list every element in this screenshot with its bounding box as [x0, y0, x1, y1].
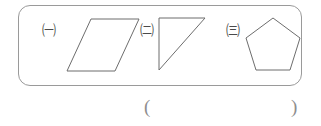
- right-triangle-shape: [157, 15, 213, 77]
- worksheet-canvas: ㈠ ㈡ ㈢ ( ): [0, 0, 321, 126]
- pentagon-shape: [243, 15, 305, 77]
- figure-label-2: ㈡: [138, 22, 155, 39]
- answer-blank-open-paren: (: [144, 96, 150, 118]
- pentagon-outline: [246, 18, 300, 70]
- figure-label-3: ㈢: [224, 22, 241, 39]
- right-triangle-outline: [159, 18, 205, 70]
- figure-item-3[interactable]: ㈢: [211, 6, 303, 87]
- answer-blank-close-paren: ): [291, 96, 297, 118]
- figure-panel: ㈠ ㈡ ㈢: [18, 5, 302, 86]
- figure-item-1[interactable]: ㈠: [31, 6, 127, 87]
- figure-item-2[interactable]: ㈡: [129, 6, 211, 87]
